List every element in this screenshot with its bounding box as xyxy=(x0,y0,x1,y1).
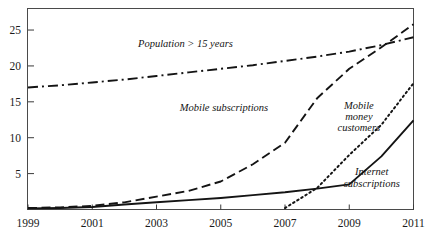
y-tick-label: 5 xyxy=(15,168,21,180)
x-tick-label: 1999 xyxy=(17,217,40,229)
y-tick-label: 10 xyxy=(10,132,22,144)
line-chart: 510152025 1999200120032005200720092011 P… xyxy=(0,0,446,241)
x-tick-label: 2007 xyxy=(274,217,297,229)
y-tick-label: 15 xyxy=(10,96,22,108)
x-tick-label: 2001 xyxy=(81,217,104,229)
mobile-subs-label: Mobile subscriptions xyxy=(179,102,268,113)
chart-background xyxy=(0,0,446,241)
population-label: Population > 15 years xyxy=(137,38,233,49)
internet-subs-label-l1: Internet xyxy=(354,166,389,177)
x-tick-label: 2005 xyxy=(209,217,232,229)
x-tick-label: 2003 xyxy=(145,217,168,229)
y-tick-label: 25 xyxy=(10,24,22,36)
mobile-money-label-l2: money xyxy=(345,111,373,122)
x-tick-label: 2011 xyxy=(402,217,425,229)
mobile-money-label-l1: Mobile xyxy=(343,100,374,111)
chart-container: 510152025 1999200120032005200720092011 P… xyxy=(0,0,446,241)
y-tick-label: 20 xyxy=(10,60,22,72)
mobile-money-label-l3: customers xyxy=(338,122,381,133)
internet-subs-label-l2: subscriptions xyxy=(344,178,400,189)
x-tick-label: 2009 xyxy=(338,217,361,229)
